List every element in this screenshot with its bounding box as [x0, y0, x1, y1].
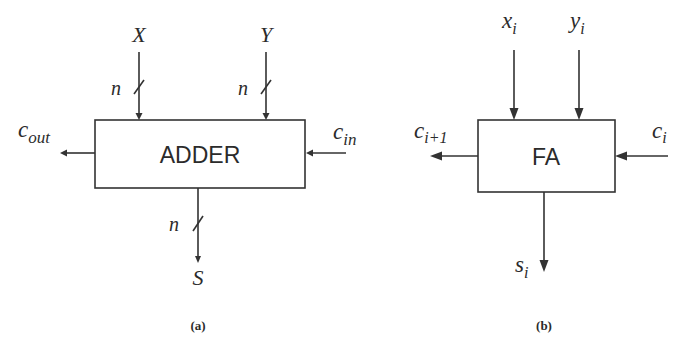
arrow-left-icon: [615, 152, 627, 161]
input-x-label: X: [131, 22, 147, 47]
input-x-width-label: n: [111, 77, 121, 99]
arrow-down-icon: [575, 108, 584, 120]
input-x-wire: [134, 52, 144, 120]
input-yi-label: yi: [568, 8, 585, 37]
input-yi-wire: [575, 50, 584, 120]
carry-in-label-fa: ci: [652, 118, 667, 146]
arrow-left-icon: [306, 150, 313, 157]
diagram-a: ADDER X n Y n cout cin: [18, 22, 356, 333]
arrow-down-icon: [136, 113, 143, 120]
carry-in-label: cin: [333, 119, 356, 149]
carry-out-label-fa: ci+1: [414, 118, 447, 146]
arrow-left-icon: [60, 150, 67, 157]
output-s-label: S: [193, 265, 204, 290]
diagram-b: FA xi yi ci+1 ci si (b): [414, 8, 668, 333]
output-si-wire: [540, 192, 549, 272]
arrow-down-icon: [263, 113, 270, 120]
output-s-width-label: n: [169, 213, 179, 235]
arrow-left-icon: [430, 152, 442, 161]
input-xi-label: xi: [501, 8, 517, 37]
caption-a: (a): [190, 318, 205, 333]
carry-in-wire-fa: [615, 152, 668, 161]
adder-diagrams: ADDER X n Y n cout cin: [0, 0, 686, 352]
input-y-width-label: n: [238, 77, 248, 99]
carry-out-wire: [60, 150, 95, 157]
input-xi-wire: [510, 50, 519, 120]
carry-out-wire-fa: [430, 152, 478, 161]
caption-b: (b): [536, 318, 552, 333]
arrow-down-icon: [510, 108, 519, 120]
full-adder-label: FA: [532, 144, 561, 170]
output-s-wire: [193, 188, 203, 263]
arrow-down-icon: [195, 256, 201, 263]
output-si-label: si: [515, 252, 528, 281]
carry-out-label: cout: [18, 117, 51, 147]
input-y-label: Y: [260, 22, 275, 47]
arrow-down-icon: [540, 260, 549, 272]
carry-in-wire: [306, 150, 346, 157]
input-y-wire: [261, 52, 271, 120]
adder-block-label: ADDER: [160, 142, 241, 168]
